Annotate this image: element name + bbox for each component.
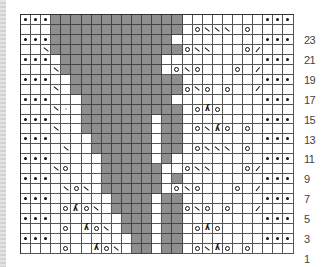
sk2p-decrease-icon [213,124,223,134]
knit-cell [203,55,213,65]
knit-cell [233,194,243,204]
no-stitch-cell [122,75,132,85]
no-stitch-cell [82,55,92,65]
no-stitch-cell [112,184,122,194]
no-stitch-cell [102,184,112,194]
knit-cell [283,85,293,95]
purl-dot-icon [283,35,293,45]
knit-cell [162,174,172,184]
yarn-over-icon [213,224,223,234]
no-stitch-cell [162,15,172,25]
knit-cell [162,65,172,75]
no-stitch-cell [142,134,152,144]
knit-cell [233,45,243,55]
k2tog-decrease-icon [253,204,263,214]
knit-cell [193,15,203,25]
no-stitch-cell [82,85,92,95]
no-stitch-cell [162,85,172,95]
no-stitch-cell [162,75,172,85]
knit-cell [213,174,223,184]
knit-cell [263,244,273,254]
knit-cell [273,144,283,154]
yarn-over-icon [193,224,203,234]
knit-cell [152,194,162,204]
knit-cell [253,244,263,254]
no-stitch-cell [172,124,182,134]
knit-cell [233,124,243,134]
knit-cell [253,174,263,184]
no-stitch-cell [152,15,162,25]
yarn-over-icon [243,244,253,254]
purl-dot-icon [41,214,51,224]
yarn-over-icon [223,124,233,134]
knit-cell [203,65,213,75]
no-stitch-cell [142,194,152,204]
knit-cell [233,55,243,65]
no-stitch-cell [172,75,182,85]
knit-cell [223,214,233,224]
no-stitch-cell [172,105,182,115]
k2tog-decrease-icon [253,65,263,75]
knit-cell [203,184,213,194]
knit-cell [213,15,223,25]
knit-cell [71,214,81,224]
no-stitch-cell [82,65,92,75]
k2tog-decrease-icon [253,164,263,174]
purl-dot-icon [41,134,51,144]
no-stitch-cell [61,55,71,65]
purl-dot-icon [283,95,293,105]
knit-cell [243,65,253,75]
knit-cell [61,115,71,125]
knit-cell [283,204,293,214]
no-stitch-cell [122,224,132,234]
no-stitch-cell [92,45,102,55]
knit-cell [253,55,263,65]
no-stitch-cell [142,164,152,174]
purl-dot-icon [283,134,293,144]
knit-cell [183,124,193,134]
purl-dot-icon [263,194,273,204]
no-stitch-cell [102,55,112,65]
no-stitch-cell [162,115,172,125]
no-stitch-cell [142,75,152,85]
no-stitch-cell [132,234,142,244]
row-label: 11 [304,153,314,165]
purl-dot-icon [31,194,41,204]
knit-cell [213,194,223,204]
knit-cell [71,115,81,125]
knit-cell [162,184,172,194]
knit-cell [223,35,233,45]
no-stitch-cell [61,65,71,75]
no-stitch-cell [92,35,102,45]
knit-cell [203,75,213,85]
no-stitch-cell [102,25,112,35]
no-stitch-cell [92,134,102,144]
yarn-over-icon [193,244,203,254]
knit-cell [102,234,112,244]
no-stitch-cell [142,35,152,45]
no-stitch-cell [82,105,92,115]
knit-cell [203,134,213,144]
yarn-over-icon [243,45,253,55]
purl-dot-icon [263,154,273,164]
no-stitch-cell [142,15,152,25]
knit-cell [31,224,41,234]
knit-cell [41,224,51,234]
knit-cell [51,244,61,254]
no-stitch-cell [162,144,172,154]
no-stitch-cell [162,204,172,214]
knit-cell [21,224,31,234]
knit-cell [253,134,263,144]
yarn-over-icon [193,124,203,134]
knit-cell [31,124,41,134]
knit-cell [71,234,81,244]
yarn-over-icon [203,85,213,95]
row-label: 17 [304,94,315,106]
no-stitch-cell [142,184,152,194]
knit-cell [213,164,223,174]
knit-cell [233,244,243,254]
knit-cell [152,124,162,134]
no-stitch-cell [71,35,81,45]
no-stitch-cell [112,105,122,115]
knit-cell [162,164,172,174]
